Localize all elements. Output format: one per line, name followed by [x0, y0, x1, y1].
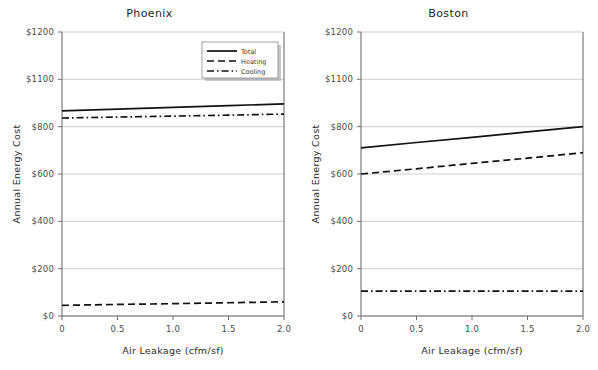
x-tick-label: 0 [358, 324, 364, 334]
legend-label-heating: Heating [241, 58, 266, 66]
y-tick-label: $1200 [325, 27, 353, 37]
x-tick-label: 0 [59, 324, 65, 334]
y-tick-label: $200 [331, 264, 353, 274]
y-tick-label: $0 [43, 311, 54, 321]
x-tick-label: 1.5 [520, 324, 534, 334]
y-tick-label: $800 [331, 122, 353, 132]
y-tick-label: $400 [32, 216, 54, 226]
x-axis-title: Air Leakage (cfm/sf) [122, 345, 224, 356]
y-tick-label: $600 [331, 169, 353, 179]
series-line-total [62, 104, 284, 111]
chart-panel-boston: Boston$1200$1100$800$600$400$200$000.51.… [299, 0, 598, 370]
legend-label-cooling: Cooling [241, 68, 265, 76]
legend-box [202, 42, 278, 78]
y-tick-label: $600 [32, 169, 54, 179]
series-line-total [361, 127, 583, 148]
x-tick-label: 1.5 [221, 324, 235, 334]
y-axis-title: Annual Energy Cost [11, 125, 22, 224]
series-line-heating [62, 302, 284, 306]
x-tick-label: 1.0 [465, 324, 479, 334]
x-tick-label: 2.0 [576, 324, 590, 334]
x-tick-label: 2.0 [277, 324, 291, 334]
y-tick-label: $1200 [26, 27, 54, 37]
y-tick-label: $200 [32, 264, 54, 274]
x-tick-label: 0.5 [409, 324, 423, 334]
figure-container: Phoenix$1200$1100$800$600$400$200$000.51… [0, 0, 598, 370]
y-tick-label: $1100 [26, 74, 54, 84]
y-tick-label: $1100 [325, 74, 353, 84]
y-tick-label: $0 [342, 311, 353, 321]
x-tick-label: 1.0 [166, 324, 180, 334]
y-tick-label: $800 [32, 122, 54, 132]
y-axis-title: Annual Energy Cost [310, 125, 321, 224]
x-tick-label: 0.5 [110, 324, 124, 334]
legend-label-total: Total [240, 48, 256, 56]
series-line-cooling [62, 114, 284, 118]
series-line-heating [361, 153, 583, 174]
chart-panel-phoenix: Phoenix$1200$1100$800$600$400$200$000.51… [0, 0, 299, 370]
y-tick-label: $400 [331, 216, 353, 226]
x-axis-title: Air Leakage (cfm/sf) [421, 345, 523, 356]
